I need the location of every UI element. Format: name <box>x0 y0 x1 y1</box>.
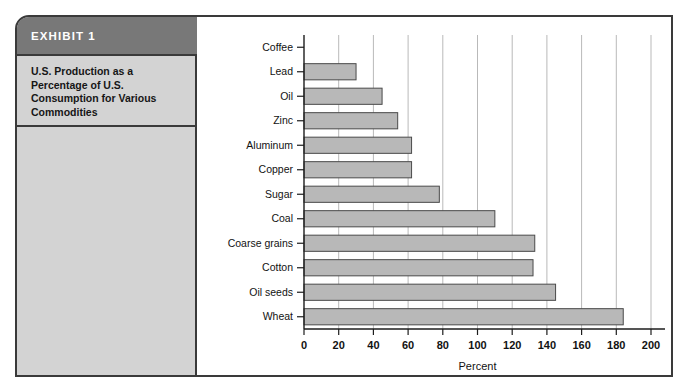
chart-panel: CoffeeLeadOilZincAluminumCopperSugarCoal… <box>197 17 671 375</box>
x-axis-tick-label: 80 <box>437 339 449 351</box>
exhibit-caption-column: EXHIBIT 1 U.S. Production as a Percentag… <box>17 17 197 375</box>
y-axis-label: Sugar <box>265 188 294 200</box>
x-axis-title: Percent <box>459 360 497 372</box>
x-axis-tick-label: 180 <box>607 339 625 351</box>
x-axis-tick-label: 0 <box>301 339 307 351</box>
x-axis-tick-label: 200 <box>642 339 660 351</box>
y-axis-label: Zinc <box>273 114 293 126</box>
chart-bar <box>304 186 439 202</box>
chart-bar <box>304 113 398 129</box>
y-axis-label: Coarse grains <box>228 237 293 249</box>
chart-bar <box>304 88 382 104</box>
chart-bar <box>304 260 533 276</box>
chart-bar <box>304 64 356 80</box>
exhibit-caption-text: U.S. Production as a Percentage of U.S. … <box>31 65 185 119</box>
exhibit-badge-label: EXHIBIT 1 <box>17 30 96 42</box>
y-axis-label: Oil seeds <box>249 286 293 298</box>
chart-bar <box>304 162 412 178</box>
x-axis-tick-label: 100 <box>468 339 486 351</box>
exhibit-caption-box: U.S. Production as a Percentage of U.S. … <box>17 56 197 127</box>
chart-bar <box>304 211 495 227</box>
x-axis-tick-label: 40 <box>367 339 379 351</box>
chart-bar <box>304 284 556 300</box>
x-axis-tick-label: 120 <box>503 339 521 351</box>
chart-plot-area: CoffeeLeadOilZincAluminumCopperSugarCoal… <box>197 17 671 375</box>
bar-chart: CoffeeLeadOilZincAluminumCopperSugarCoal… <box>197 17 671 375</box>
exhibit-badge: EXHIBIT 1 <box>17 17 197 56</box>
y-axis-label: Copper <box>259 163 294 175</box>
y-axis-label: Coffee <box>262 41 293 53</box>
y-axis-label: Cotton <box>262 261 293 273</box>
chart-bar <box>304 235 535 251</box>
chart-bar <box>304 309 623 325</box>
exhibit-card: EXHIBIT 1 U.S. Production as a Percentag… <box>15 15 673 377</box>
exhibit-figure: EXHIBIT 1 U.S. Production as a Percentag… <box>0 0 686 392</box>
x-axis-tick-label: 20 <box>333 339 345 351</box>
y-axis-label: Oil <box>280 90 293 102</box>
y-axis-label: Aluminum <box>246 139 293 151</box>
x-axis-tick-label: 140 <box>538 339 556 351</box>
chart-bar <box>304 137 412 153</box>
exhibit-caption-filler <box>17 127 197 375</box>
y-axis-label: Lead <box>270 65 294 77</box>
y-axis-label: Wheat <box>263 310 293 322</box>
y-axis-label: Coal <box>271 212 293 224</box>
x-axis-tick-label: 160 <box>572 339 590 351</box>
x-axis-tick-label: 60 <box>402 339 414 351</box>
